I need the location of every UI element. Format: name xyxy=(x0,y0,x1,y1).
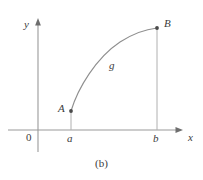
point-a-label: A xyxy=(58,103,65,114)
figure-container: y x 0 a b A B g (b) xyxy=(0,0,203,180)
point-b-label: B xyxy=(164,18,171,29)
x-axis-arrowhead xyxy=(176,127,184,133)
point-b-marker xyxy=(155,26,159,30)
x-tick-label-a: a xyxy=(67,133,73,144)
y-axis-arrowhead xyxy=(35,18,41,26)
y-axis-label: y xyxy=(24,19,29,30)
coordinate-plot-svg xyxy=(0,0,203,180)
x-axis-label: x xyxy=(188,132,193,143)
curve-g-label: g xyxy=(109,60,115,71)
point-a-marker xyxy=(69,109,73,113)
origin-label: 0 xyxy=(26,132,32,143)
figure-caption: (b) xyxy=(0,157,203,169)
x-tick-label-b: b xyxy=(153,133,159,144)
